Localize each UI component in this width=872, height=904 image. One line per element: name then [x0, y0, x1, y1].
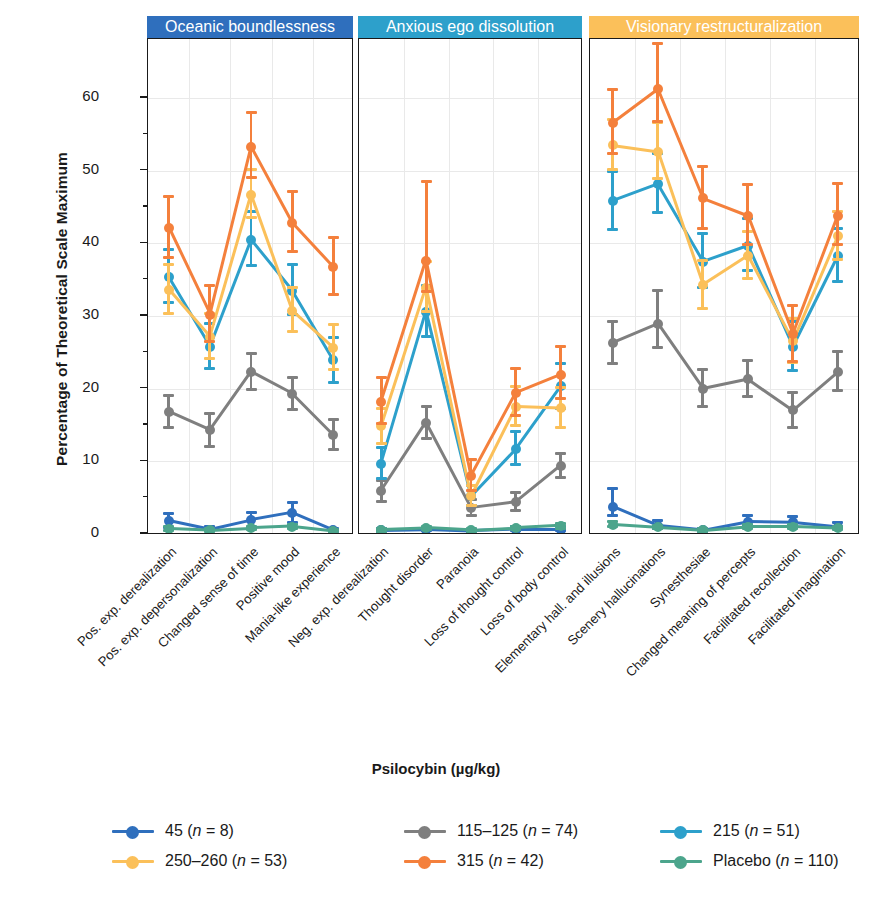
gridline-h [590, 461, 858, 462]
y-tick-mark [140, 314, 147, 316]
gridline-v [189, 39, 190, 533]
error-bar-cap [287, 376, 298, 379]
legend-item[interactable]: 250–260 (n = 53) [112, 846, 287, 876]
error-bar-cap [163, 312, 174, 315]
legend-item[interactable]: 315 (n = 42) [404, 846, 544, 876]
error-bar-cap [246, 352, 257, 355]
data-point [328, 262, 338, 272]
error-bar-cap [204, 445, 215, 448]
error-bar [656, 44, 659, 122]
legend-row: 45 (n = 8)115–125 (n = 74)215 (n = 51) [112, 816, 812, 846]
data-point [653, 179, 663, 189]
error-bar-cap [787, 360, 798, 363]
error-bar-cap [787, 369, 798, 372]
error-bar-cap [163, 195, 174, 198]
data-point [743, 374, 753, 384]
data-point [653, 319, 663, 329]
gridline-v [272, 39, 273, 533]
legend-marker-icon [112, 824, 154, 838]
gridline-v [635, 39, 636, 533]
error-bar-cap [466, 504, 477, 507]
error-bar-cap [697, 405, 708, 408]
data-point [608, 196, 618, 206]
data-point [608, 520, 618, 530]
data-point [205, 310, 215, 320]
panel-header-1: Anxious ego dissolution [358, 16, 582, 38]
error-bar-cap [742, 359, 753, 362]
error-bar-cap [607, 320, 618, 323]
data-point [556, 370, 566, 380]
data-point [328, 343, 338, 353]
error-bar-cap [287, 501, 298, 504]
error-bar-cap [510, 430, 521, 433]
data-point [164, 524, 174, 534]
data-point [328, 430, 338, 440]
gridline-h [590, 171, 858, 172]
y-tick-label: 40 [59, 232, 99, 249]
x-tick-label: Changed meaning of percepts [464, 544, 757, 837]
y-tick-mark [140, 387, 147, 389]
error-bar-cap [287, 408, 298, 411]
error-bar-cap [163, 426, 174, 429]
legend-item[interactable]: Placebo (n = 110) [660, 846, 839, 876]
legend-label: 215 (n = 51) [713, 822, 800, 840]
data-point [556, 403, 566, 413]
y-tick-label: 20 [59, 378, 99, 395]
error-bar-cap [607, 228, 618, 231]
error-bar-cap [697, 368, 708, 371]
legend-item[interactable]: 115–125 (n = 74) [404, 816, 578, 846]
gridline-h [148, 316, 352, 317]
gridline-h [359, 316, 581, 317]
error-bar-cap [328, 381, 339, 384]
x-tick-label: Synesthesiae [419, 544, 712, 837]
error-bar-cap [328, 448, 339, 451]
data-point [164, 285, 174, 295]
error-bar-cap [607, 514, 618, 517]
error-bar-cap [376, 422, 387, 425]
error-bar-cap [832, 350, 843, 353]
error-bar-cap [832, 182, 843, 185]
error-bar-cap [510, 414, 521, 417]
error-bar-cap [287, 250, 298, 253]
gridline-h [590, 316, 858, 317]
error-bar-cap [510, 491, 521, 494]
error-bar-cap [204, 284, 215, 287]
data-point [608, 338, 618, 348]
legend-label: 115–125 (n = 74) [457, 822, 578, 840]
error-bar-cap [607, 487, 618, 490]
error-bar-cap [555, 426, 566, 429]
data-point [743, 522, 753, 532]
error-bar-cap [466, 489, 477, 492]
error-bar-cap [697, 307, 708, 310]
error-bar-cap [421, 335, 432, 338]
data-point [466, 525, 476, 534]
gridline-h [148, 98, 352, 99]
data-point [608, 118, 618, 128]
error-bar-cap [246, 264, 257, 267]
data-point [376, 525, 386, 534]
legend-item[interactable]: 45 (n = 8) [112, 816, 234, 846]
error-bar-cap [246, 176, 257, 179]
gridline-h [590, 98, 858, 99]
gridline-h [148, 461, 352, 462]
error-bar-cap [246, 388, 257, 391]
y-tick-label: 60 [59, 87, 99, 104]
error-bar-cap [742, 243, 753, 246]
legend-item[interactable]: 215 (n = 51) [660, 816, 800, 846]
y-tick-mark [140, 242, 147, 244]
data-point [511, 523, 521, 533]
error-bar-cap [510, 367, 521, 370]
error-bar-cap [328, 368, 339, 371]
x-tick-label: Facilitated recollection [509, 544, 802, 837]
data-point [376, 486, 386, 496]
data-point [698, 193, 708, 203]
error-bar-cap [287, 286, 298, 289]
legend-label: Placebo (n = 110) [713, 852, 839, 870]
data-point [653, 522, 663, 532]
data-point [556, 461, 566, 471]
data-point [653, 147, 663, 157]
error-bar-cap [287, 330, 298, 333]
gridline-v [770, 39, 771, 533]
data-point [246, 523, 256, 533]
error-bar-cap [697, 232, 708, 235]
